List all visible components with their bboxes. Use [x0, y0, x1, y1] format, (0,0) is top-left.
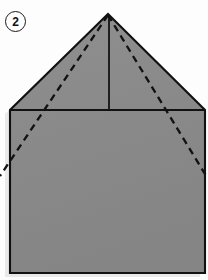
- step-number-badge: 2: [5, 11, 26, 32]
- paper-outline: [10, 14, 205, 273]
- diagram-canvas: 2: [0, 0, 208, 280]
- origami-diagram: [0, 0, 208, 280]
